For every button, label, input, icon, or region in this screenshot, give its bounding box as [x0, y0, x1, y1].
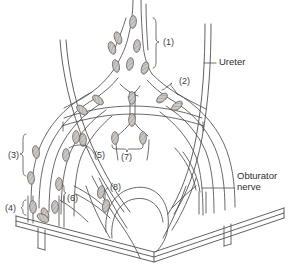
- base-platform: [16, 208, 284, 262]
- label-ureter: Ureter: [219, 57, 245, 68]
- diagram-canvas: [0, 0, 291, 270]
- label-6: (6): [67, 193, 78, 203]
- lymph-node-group-para-aortic: [107, 15, 150, 75]
- label-8: (8): [110, 182, 121, 192]
- label-4: (4): [5, 203, 16, 213]
- lower-vessel-fans: [60, 186, 196, 222]
- label-3: (3): [8, 150, 19, 160]
- right-iliac-arcs: [160, 93, 235, 215]
- bracket-3: [20, 134, 26, 176]
- drawing-lines: [16, 0, 284, 262]
- lymph-node-group-presacral: [112, 92, 147, 145]
- bracket-1: [153, 18, 159, 68]
- lymph-node-group-external-iliac-left: [27, 145, 40, 213]
- lymph-nodes: [27, 15, 184, 224]
- label-obturator-nerve-line2: nerve: [237, 182, 261, 193]
- label-7: (7): [121, 152, 132, 162]
- label-1: (1): [163, 37, 174, 47]
- bracket-4: [21, 200, 26, 215]
- label-5: (5): [94, 150, 105, 160]
- label-2: (2): [179, 76, 190, 86]
- leader-5: [69, 145, 94, 154]
- pelvic-lymph-node-diagram: (1) (2) (3) (4) (5) (6) (7) (8) Ureter O…: [0, 0, 291, 270]
- label-obturator-nerve-line1: Obturator: [237, 171, 277, 182]
